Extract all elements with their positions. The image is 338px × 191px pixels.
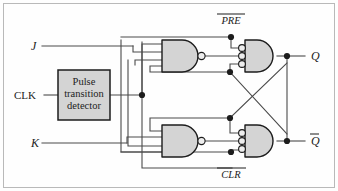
input-label-k: K xyxy=(30,136,40,150)
nand-bottom-output-bubble xyxy=(198,137,205,144)
junction-pre xyxy=(228,34,234,40)
block-label-line1: Pulse xyxy=(73,76,96,87)
top-gate-input-bubble-2 xyxy=(239,53,246,60)
junction-q-output xyxy=(284,53,290,59)
input-label-pre: PRE xyxy=(220,15,241,26)
block-label-line2: transition xyxy=(64,88,104,99)
negative-and-gate-top xyxy=(245,40,273,72)
output-label-q: Q xyxy=(311,49,320,63)
wire-k-to-nand xyxy=(127,137,162,143)
junction-clk xyxy=(139,92,145,98)
output-label-q-not: Q xyxy=(311,134,320,148)
bottom-gate-input-bubble-1 xyxy=(239,130,246,137)
circuit-diagram: Pulse transition detector J CLK K PRE CL… xyxy=(0,0,338,191)
junction-qbar-feedback xyxy=(227,69,233,75)
negative-and-gate-bottom xyxy=(245,125,273,157)
wire-feedback-bus-b xyxy=(128,60,162,146)
input-label-clk: CLK xyxy=(14,89,36,101)
nand-top-output-bubble xyxy=(198,52,205,59)
input-label-j: J xyxy=(31,39,37,53)
nand-gate-top xyxy=(162,40,198,72)
top-gate-input-bubble-3 xyxy=(239,61,246,68)
junction-clr xyxy=(228,149,234,155)
bottom-gate-input-bubble-2 xyxy=(239,138,246,145)
top-gate-input-bubble-1 xyxy=(239,45,246,52)
junction-q-feedback xyxy=(227,115,233,121)
input-label-clr: CLR xyxy=(221,169,241,180)
nand-gate-bottom xyxy=(162,125,198,157)
block-label-line3: detector xyxy=(67,100,101,111)
wire-j-to-nand xyxy=(133,46,162,52)
bottom-gate-input-bubble-3 xyxy=(239,146,246,153)
junction-qbar-output xyxy=(284,138,290,144)
wire-feedback-bus-c xyxy=(135,60,162,65)
